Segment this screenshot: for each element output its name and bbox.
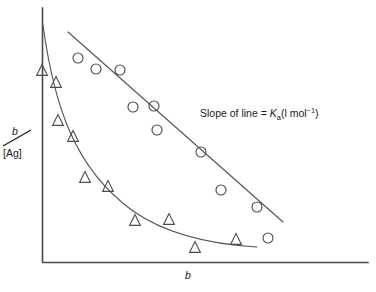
slope-annotation-text: Slope of line = Ka(l mol−1) <box>200 106 319 121</box>
data-point-circle <box>263 233 273 243</box>
data-point-circle <box>115 65 125 75</box>
data-point-circle <box>91 64 101 74</box>
straight-fit-path <box>68 32 283 222</box>
y-axis-label-denominator: [Ag] <box>3 147 22 159</box>
annotation-units-exponent: −1 <box>307 106 315 115</box>
axis-lines <box>43 8 369 263</box>
data-point-triangle <box>130 215 141 226</box>
annotation-units-close: ) <box>315 107 319 119</box>
data-point-circle <box>152 125 162 135</box>
x-axis-label: b <box>185 269 191 281</box>
data-point-triangle <box>190 242 201 253</box>
data-point-circle <box>73 53 83 63</box>
data-point-circle <box>252 202 262 212</box>
data-point-triangle <box>231 234 242 245</box>
data-point-triangle <box>164 214 175 225</box>
circles-fit-line <box>68 32 283 222</box>
data-point-circle <box>216 185 226 195</box>
scatchard-plot-figure: b [Ag] b Slope of line = Ka(l mol−1) <box>0 0 376 292</box>
circle-markers-group <box>73 53 273 243</box>
axes-group <box>43 8 369 263</box>
chart-canvas: b [Ag] b Slope of line = Ka(l mol−1) <box>0 0 376 292</box>
annotation-prefix: Slope of line = <box>200 107 270 119</box>
annotation-units-open: (l mol <box>281 107 307 119</box>
data-point-triangle <box>80 172 91 183</box>
y-axis-label: b [Ag] <box>3 125 31 159</box>
y-axis-label-numerator: b <box>12 125 18 137</box>
data-point-circle <box>128 102 138 112</box>
data-point-circle <box>149 101 159 111</box>
data-point-triangle <box>53 115 64 126</box>
slope-annotation: Slope of line = Ka(l mol−1) <box>200 106 319 121</box>
